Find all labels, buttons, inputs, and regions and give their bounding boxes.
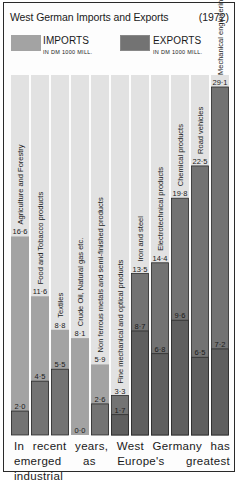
bar-imports bbox=[112, 415, 129, 435]
bar-imports bbox=[152, 354, 169, 435]
value-label-exports: 2·6 bbox=[95, 395, 106, 404]
category-label: Agriculture and Forestry bbox=[16, 144, 25, 224]
caption-line-1: In recent years, West Germany has bbox=[14, 439, 230, 454]
category-label: Crude Oil, Natural gas etc. bbox=[76, 238, 85, 326]
value-label-imports: 6·5 bbox=[195, 348, 206, 357]
bar-imports bbox=[172, 320, 189, 435]
value-label-exports: 29·1 bbox=[212, 78, 227, 87]
category-label: Non ferrous metals and semi-finished pro… bbox=[96, 197, 105, 352]
bar-exports bbox=[52, 369, 69, 435]
category-label: Electrotechnical products bbox=[156, 167, 165, 251]
bar-exports bbox=[32, 381, 49, 435]
bar-imports bbox=[132, 331, 149, 435]
category-label: Fine mechanical and optical products bbox=[116, 259, 125, 383]
value-label-exports: 0·0 bbox=[75, 426, 86, 435]
category-label: Chemical products bbox=[176, 124, 185, 186]
value-label-imports: 7·2 bbox=[215, 340, 226, 349]
category-label: Food and Tobacco products bbox=[36, 192, 45, 285]
bar-imports bbox=[192, 357, 209, 435]
category-label: Road vehicles bbox=[196, 107, 205, 154]
value-label-imports: 6·8 bbox=[155, 345, 166, 354]
bar-exports bbox=[92, 404, 109, 435]
value-label-imports: 1·7 bbox=[115, 406, 126, 415]
value-label-exports: 5·5 bbox=[55, 360, 66, 369]
value-label-exports: 3·3 bbox=[115, 387, 126, 396]
value-label-exports: 19·8 bbox=[172, 189, 187, 198]
value-label-exports: 2·0 bbox=[15, 402, 26, 411]
value-label-exports: 13·5 bbox=[132, 265, 147, 274]
value-label-imports: 8·8 bbox=[55, 321, 66, 330]
value-label-imports: 11·6 bbox=[33, 287, 47, 296]
caption-line-2: emerged as Europe's greatest industrial bbox=[14, 454, 230, 484]
bar-imports bbox=[71, 338, 89, 435]
category-label: Textiles bbox=[56, 293, 65, 318]
value-label-exports: 22·5 bbox=[192, 157, 207, 166]
value-label-exports: 14·4 bbox=[152, 254, 167, 263]
category-label: Mechanical engineering products bbox=[216, 0, 225, 75]
value-label-imports: 5·9 bbox=[95, 355, 106, 364]
bar-exports bbox=[12, 411, 29, 435]
bar-imports bbox=[212, 349, 229, 435]
category-label: Iron and steel bbox=[136, 216, 145, 262]
value-label-imports: 16·6 bbox=[12, 227, 27, 236]
value-label-imports: 9·6 bbox=[175, 311, 186, 320]
caption-text: In recent years, West Germany has emerge… bbox=[14, 439, 230, 484]
value-label-imports: 8·7 bbox=[135, 322, 146, 331]
value-label-exports: 4·5 bbox=[35, 372, 46, 381]
value-label-imports: 8·1 bbox=[75, 329, 86, 338]
